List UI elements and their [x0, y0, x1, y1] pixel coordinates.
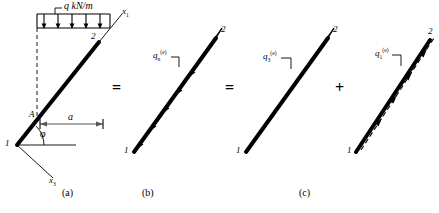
load-decomposition-diagram: [0, 0, 439, 213]
node-label-1-a: 1: [5, 139, 10, 148]
node-label-2-c-left: 2: [333, 25, 338, 34]
node-label-2-b: 2: [221, 25, 226, 34]
panel-c-right-graphics: [356, 38, 434, 152]
load-band-outer-c-left: [269, 28, 334, 119]
load-label-leader-b: [171, 57, 179, 67]
node-label-2-c-right: 2: [428, 27, 433, 36]
axis-x3-label-a: x3: [49, 176, 56, 187]
axis-x3-line-a: [17, 145, 53, 178]
point-label-A-a: A: [29, 110, 35, 119]
load-label-leader-a: [55, 8, 62, 14]
load-magnitude-label-a: q kN/m: [64, 1, 93, 11]
bar-member-a: [17, 42, 99, 145]
panel-c-left-graphics: [246, 28, 334, 152]
caption-panel-b: (b): [142, 188, 154, 198]
dimension-label-a: a: [68, 112, 73, 122]
angle-label-phi-a: φ: [40, 129, 46, 139]
axis-x1-label-a: x1: [122, 7, 129, 18]
normal-load-arrows-b: [139, 42, 213, 146]
figure-container: q kN/m x1 x3 2 1 A a φ qn(e) 2 1 q3(e) 2…: [0, 0, 439, 213]
node-label-2-a: 2: [91, 32, 96, 41]
caption-panel-c: (c): [299, 188, 310, 198]
node-label-1-c-right: 1: [347, 146, 352, 155]
panel-b-graphics: [134, 28, 222, 152]
bar-member-c-right: [356, 40, 430, 152]
axial-load-label-c: q1(e): [375, 48, 389, 60]
node-label-1-b: 1: [124, 146, 129, 155]
equals-operator-1: =: [112, 80, 121, 96]
node-label-1-c-left: 1: [236, 146, 241, 155]
transverse-load-label-c: q3(e): [263, 51, 277, 63]
caption-panel-a: (a): [62, 188, 73, 198]
panel-a-graphics: [17, 8, 122, 178]
plus-operator-1: +: [335, 80, 344, 96]
load-label-leader-c-right: [392, 55, 401, 66]
load-label-leader-c-left: [281, 58, 291, 69]
equals-operator-2: =: [225, 80, 234, 96]
normal-load-label-b: qn(e): [153, 50, 167, 62]
load-band-outer-b: [157, 28, 222, 119]
